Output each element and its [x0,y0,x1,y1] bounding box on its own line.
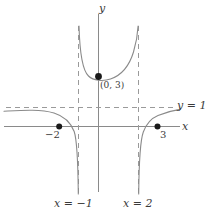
y-axis-label: y [99,2,105,15]
curve-branch-left [4,110,78,194]
y-intercept-label: (0, 3) [100,80,124,90]
vertical-asymptote-left-label: x = −1 [54,197,93,210]
horizontal-asymptote-label: y = 1 [177,99,206,112]
x-intercept-right-label: 3 [160,129,166,140]
vertical-asymptote-right-label: x = 2 [123,197,152,210]
rational-function-graph: y x y = 1 x = −1 x = 2 (0, 3) −2 3 [0,0,216,219]
curve-branch-right [139,109,180,194]
x-axis-label: x [182,120,188,133]
point-y-intercept [95,73,102,80]
curve-branch-middle [79,26,138,80]
x-intercept-left-label: −2 [45,129,60,140]
